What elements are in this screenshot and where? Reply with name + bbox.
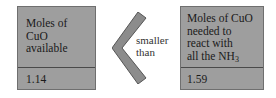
moles-cuo-needed-box: Moles of CuO needed to react with all th…: [180, 6, 264, 90]
left-box-value: 1.14: [18, 68, 95, 89]
comparison-label-line-1: smaller: [136, 34, 168, 46]
comparison-label-line-2: than: [136, 46, 168, 58]
right-label-line-4: all the NH3: [187, 50, 257, 67]
right-label-line-1: Moles of CuO: [187, 12, 257, 25]
right-box-label: Moles of CuO needed to react with all th…: [181, 7, 263, 66]
left-box-label: Moles of CuO available: [18, 7, 95, 55]
comparison-label: smaller than: [136, 34, 168, 58]
right-label-line-3: react with: [187, 37, 257, 50]
nh3-subscript: 3: [235, 55, 239, 64]
left-label-line-1: Moles of: [26, 17, 89, 30]
right-label-line-4-text: all the NH: [187, 50, 235, 62]
left-label-line-2: CuO: [26, 30, 89, 43]
right-label-line-2: needed to: [187, 25, 257, 38]
moles-cuo-available-box: Moles of CuO available 1.14: [17, 6, 96, 90]
right-box-value: 1.59: [181, 68, 263, 89]
left-label-line-3: available: [26, 42, 89, 55]
